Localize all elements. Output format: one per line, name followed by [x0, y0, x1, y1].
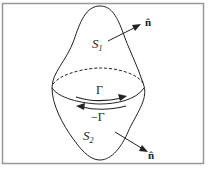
normal-bottom-label: n̂	[148, 150, 154, 161]
surface-s2-label: S2	[83, 129, 94, 145]
minus-gamma-label: −Γ	[91, 111, 105, 123]
normal-vector-bottom	[115, 132, 143, 149]
arrowhead-icon	[139, 145, 148, 152]
frame-border	[3, 4, 204, 164]
arrowhead-icon	[76, 103, 85, 110]
diagram-drawing	[0, 0, 208, 172]
stokes-surface-diagram: S1 n̂ Γ −Γ S2 n̂	[0, 0, 208, 172]
rim-back-dashed	[53, 68, 144, 84]
contour-minus-gamma-arrow	[82, 106, 126, 109]
normal-top-label: n̂	[145, 17, 151, 28]
arrowhead-icon	[132, 24, 141, 31]
surface-s1-label: S1	[92, 37, 103, 53]
contour-gamma-arrow	[76, 97, 122, 101]
gamma-label: Γ	[96, 84, 103, 96]
